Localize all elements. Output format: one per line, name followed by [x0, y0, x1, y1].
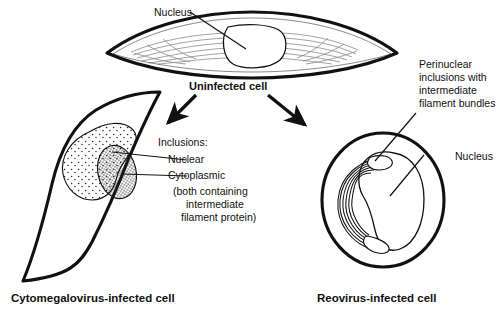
diagram-vector-layer [0, 0, 504, 318]
cmv-inclusion-cytoplasmic-label: Cytoplasmic [168, 169, 225, 182]
bundle-cap-top [368, 156, 393, 170]
reovirus-inclusion-label-line3: intermediate [419, 84, 477, 97]
cmv-cell-caption: Cytomegalovirus-infected cell [11, 292, 175, 305]
cmv-inclusions-heading: Inclusions: [158, 136, 208, 149]
cmv-inclusion-note-line1: (both containing [173, 185, 248, 198]
reovirus-inclusion-label-line4: filament bundles [419, 97, 495, 110]
uninfected-cell-nucleus [223, 25, 285, 68]
uninfected-cell-drawing [107, 12, 397, 78]
arrow-to-reovirus-cell [268, 95, 305, 125]
filament-strands-left [131, 33, 231, 64]
uninfected-nucleus-label: Nucleus [154, 6, 192, 19]
reovirus-cell-caption: Reovirus-infected cell [317, 292, 437, 305]
branch-arrows [168, 95, 305, 125]
reovirus-cell-drawing [322, 113, 444, 267]
reovirus-nucleus-label: Nucleus [455, 150, 493, 163]
reovirus-inclusion-label-line2: inclusions with [419, 71, 487, 84]
arrow-to-cmv-cell [168, 95, 196, 123]
uninfected-cell-caption: Uninfected cell [189, 80, 267, 93]
diagram-canvas: Nucleus Uninfected cell Inclusions: Nucl… [0, 0, 504, 318]
cmv-cell-drawing [23, 92, 187, 281]
cmv-inclusion-note-line3: filament protein) [181, 211, 256, 224]
cmv-inclusion-note-line2: intermediate [186, 198, 244, 211]
filament-strands-right [279, 33, 358, 64]
cmv-inclusion-nuclear-label: Nuclear [168, 153, 204, 166]
reovirus-inclusion-label-line1: Perinuclear [419, 58, 472, 71]
